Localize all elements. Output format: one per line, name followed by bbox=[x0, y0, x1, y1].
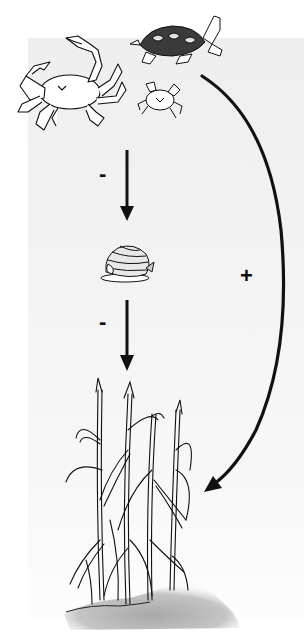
marsh-grass-icon bbox=[66, 378, 191, 604]
mud-crab-icon bbox=[138, 82, 182, 118]
sign-minus-1: - bbox=[99, 163, 106, 185]
blue-crab-icon bbox=[18, 36, 126, 130]
sign-plus: + bbox=[240, 265, 253, 287]
arrow-predator-to-grazer bbox=[120, 150, 134, 221]
arrow-grazer-to-plant bbox=[120, 300, 134, 371]
terrapin-icon bbox=[130, 16, 222, 64]
snail-icon bbox=[101, 246, 154, 282]
sign-minus-2: - bbox=[99, 311, 106, 333]
